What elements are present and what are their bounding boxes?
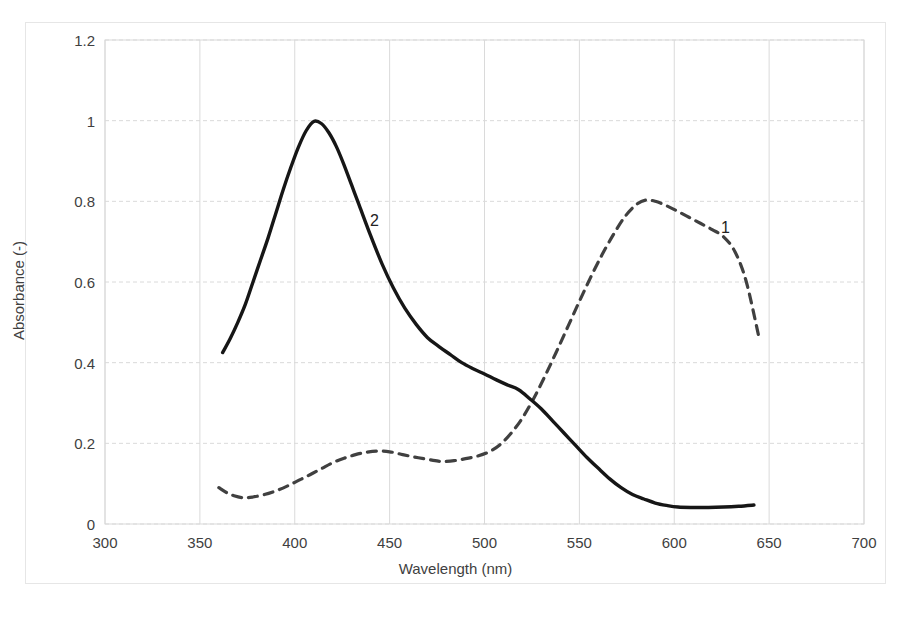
series-annotation-1: 1	[721, 219, 730, 237]
series-annotation-2: 2	[370, 212, 379, 230]
absorbance-spectrum-figure: 300350400450500550600650700 00.20.40.60.…	[0, 0, 911, 627]
series-line-1	[219, 200, 760, 498]
y-tick-label: 0.4	[43, 354, 95, 371]
y-tick-label: 0.6	[43, 274, 95, 291]
chart-canvas	[0, 0, 911, 627]
x-tick-label: 450	[377, 534, 402, 551]
x-tick-label: 650	[757, 534, 782, 551]
y-tick-label: 0	[43, 516, 95, 533]
x-tick-label: 600	[662, 534, 687, 551]
plot-area: 300350400450500550600650700 00.20.40.60.…	[0, 0, 911, 627]
gridlines	[105, 40, 864, 524]
y-axis-title: Absorbance (-)	[10, 211, 27, 371]
y-tick-label: 1	[43, 112, 95, 129]
x-tick-label: 700	[851, 534, 876, 551]
x-tick-label: 550	[567, 534, 592, 551]
x-axis-title: Wavelength (nm)	[0, 560, 911, 577]
y-tick-label: 1.2	[43, 32, 95, 49]
y-tick-label: 0.8	[43, 193, 95, 210]
x-tick-label: 500	[472, 534, 497, 551]
y-tick-label: 0.2	[43, 435, 95, 452]
data-series-group	[219, 121, 760, 508]
x-tick-label: 350	[187, 534, 212, 551]
x-tick-label: 300	[92, 534, 117, 551]
x-tick-label: 400	[282, 534, 307, 551]
